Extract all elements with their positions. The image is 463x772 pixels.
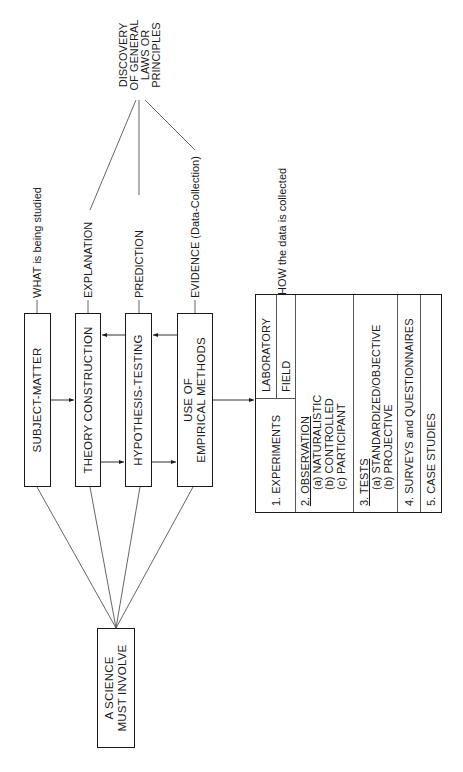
surveys-text: 4. SURVEYS and QUESTIONNAIRES — [403, 319, 415, 506]
empirical-methods-box: USE OF EMPIRICAL METHODS — [177, 313, 213, 487]
case-studies-cell: 5. CASE STUDIES — [421, 407, 441, 512]
laboratory-text: LABORATORY — [260, 318, 272, 392]
surveys-row: 4. SURVEYS and QUESTIONNAIRES — [398, 295, 421, 512]
theory-construction-label: THEORY CONSTRUCTION — [82, 326, 95, 473]
projective-text: (b) PROJECTIVE — [382, 404, 394, 506]
root-label-line2: MUST INVOLVE — [116, 645, 129, 732]
discovery-line4: PRINCIPLES — [151, 10, 162, 100]
root-label-line1: A SCIENCE — [103, 656, 116, 719]
empirical-methods-label-line1: USE OF — [182, 378, 195, 422]
participant-text: (c) PARTICIPANT — [335, 403, 347, 506]
observation-cell: 2. OBSERVATION (a) NATURALISTIC (b) CONT… — [299, 389, 347, 512]
controlled-text: (b) CONTROLLED — [323, 398, 335, 506]
laboratory-cell: LABORATORY — [256, 295, 277, 399]
experiments-label: 1. EXPERIMENTS — [256, 399, 295, 512]
explanation-annotation: EXPLANATION — [82, 222, 94, 298]
field-cell: FIELD — [277, 295, 295, 399]
naturalistic-text: (a) NATURALISTIC — [311, 395, 323, 506]
standardized-text: (a) STANDARDIZED/OBJECTIVE — [370, 325, 382, 506]
experiments-row: 1. EXPERIMENTS LABORATORY FIELD — [256, 295, 296, 512]
prediction-annotation: PREDICTION — [133, 230, 145, 298]
observation-text: 2. OBSERVATION — [299, 416, 311, 506]
methods-table: 1. EXPERIMENTS LABORATORY FIELD 2. OBSER… — [255, 294, 442, 513]
how-annotation: HOW the data is collected — [276, 168, 288, 295]
tests-text: 3. TESTS — [358, 459, 370, 506]
tests-row: 3. TESTS (a) STANDARDIZED/OBJECTIVE (b) … — [354, 295, 398, 512]
science-diagram: A SCIENCE MUST INVOLVE SUBJECT-MATTER TH… — [0, 0, 463, 772]
experiments-text: 1. EXPERIMENTS — [270, 415, 282, 506]
observation-row: 2. OBSERVATION (a) NATURALISTIC (b) CONT… — [296, 295, 354, 512]
discovery-goal: DISCOVERY OF GENERAL LAWS OR PRINCIPLES — [118, 10, 162, 100]
what-annotation: WHAT is being studied — [31, 187, 43, 298]
surveys-cell: 4. SURVEYS and QUESTIONNAIRES — [398, 313, 420, 512]
tests-cell: 3. TESTS (a) STANDARDIZED/OBJECTIVE (b) … — [358, 319, 394, 512]
case-studies-row: 5. CASE STUDIES — [421, 295, 441, 512]
subject-matter-label: SUBJECT-MATTER — [31, 348, 44, 453]
hypothesis-testing-label: HYPOTHESIS-TESTING — [132, 334, 145, 465]
hypothesis-testing-box: HYPOTHESIS-TESTING — [125, 313, 152, 487]
science-root-box: A SCIENCE MUST INVOLVE — [97, 628, 135, 748]
subject-matter-box: SUBJECT-MATTER — [24, 313, 51, 487]
empirical-methods-label-line2: EMPIRICAL METHODS — [195, 337, 208, 463]
theory-construction-box: THEORY CONSTRUCTION — [75, 313, 101, 487]
field-text: FIELD — [280, 361, 292, 392]
case-studies-text: 5. CASE STUDIES — [425, 413, 437, 506]
evidence-annotation: EVIDENCE (Data-Collection) — [189, 156, 201, 298]
